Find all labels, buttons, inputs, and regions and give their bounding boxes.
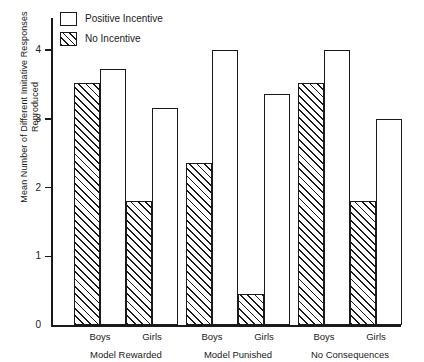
group-label-0: Model Rewarded [66,349,186,360]
bar-no-incentive-5 [350,201,376,325]
bar-no-incentive-0 [74,83,100,325]
bar-no-incentive-1 [126,201,152,325]
bar-series-container [0,0,424,362]
category-label-5: Girls [346,331,406,342]
bar-positive-incentive-4 [324,50,350,325]
group-label-2: No Consequences [290,349,410,360]
bar-no-incentive-3 [238,294,264,325]
category-label-3: Girls [234,331,294,342]
group-label-1: Model Punished [178,349,298,360]
bar-positive-incentive-3 [264,94,290,325]
bar-chart-figure: Positive Incentive No Incentive Mean Num… [0,0,424,362]
bar-positive-incentive-1 [152,108,178,325]
bar-positive-incentive-2 [212,50,238,325]
category-label-0: Boys [70,331,130,342]
bar-positive-incentive-5 [376,119,402,325]
category-label-2: Boys [182,331,242,342]
category-label-1: Girls [122,331,182,342]
bar-positive-incentive-0 [100,69,126,325]
bar-no-incentive-4 [298,83,324,325]
category-label-4: Boys [294,331,354,342]
bar-no-incentive-2 [186,163,212,325]
